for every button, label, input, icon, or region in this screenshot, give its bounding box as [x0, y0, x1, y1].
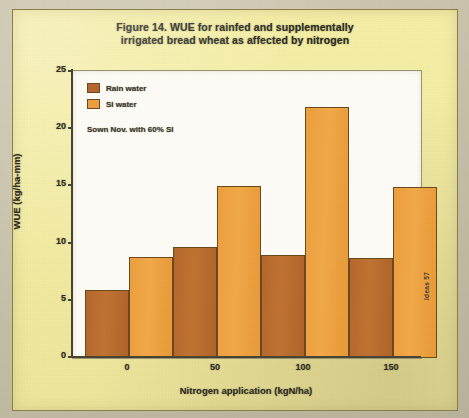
figure-title-line2: irrigated bread wheat as affected by nit… [43, 34, 427, 47]
bar-si-water-0 [129, 257, 173, 358]
bar-si-water-100 [305, 107, 349, 358]
x-tick-100: 100 [279, 362, 327, 372]
plot-area: Rain water SI water Sown Nov. with 60% S… [72, 70, 422, 359]
x-tick-150: 150 [367, 362, 415, 372]
y-tick-15: 15 [38, 178, 66, 188]
side-margin-code: Ideas 57 [423, 272, 430, 300]
y-axis-title: WUE (kg/ha-mm) [11, 132, 22, 252]
plot-inner: Rain water SI water Sown Nov. with 60% S… [73, 71, 421, 358]
legend-item-rain-water: Rain water [87, 83, 146, 93]
bar-rain-water-150 [349, 258, 393, 358]
legend-item-si-water: SI water [87, 99, 146, 109]
x-tick-50: 50 [191, 362, 239, 372]
x-axis-line [71, 356, 421, 358]
y-tick-5: 5 [38, 293, 66, 303]
bar-si-water-50 [217, 186, 261, 358]
y-tick-10: 10 [38, 236, 66, 246]
y-axis-line [71, 69, 73, 358]
chart-legend: Rain water SI water [87, 83, 146, 115]
screenshot-root: Figure 14. WUE for rainfed and supplemen… [0, 0, 469, 418]
y-tick-20: 20 [38, 121, 66, 131]
y-tick-25: 25 [38, 64, 66, 74]
figure-title: Figure 14. WUE for rainfed and supplemen… [43, 21, 427, 47]
bar-rain-water-0 [85, 290, 129, 358]
bar-rain-water-50 [173, 247, 217, 358]
x-tick-0: 0 [103, 362, 151, 372]
figure-title-line1: Figure 14. WUE for rainfed and supplemen… [116, 21, 353, 33]
legend-label-rain-water: Rain water [106, 84, 146, 93]
legend-swatch-si-water-icon [87, 99, 100, 109]
chart-annotation: Sown Nov. with 60% SI [87, 125, 174, 134]
y-tick-0: 0 [38, 350, 66, 360]
x-axis-title: Nitrogen application (kgN/ha) [72, 385, 420, 396]
bar-si-water-150 [393, 187, 437, 358]
bar-rain-water-100 [261, 255, 305, 358]
legend-label-si-water: SI water [106, 100, 137, 109]
legend-swatch-rain-water-icon [87, 83, 100, 93]
